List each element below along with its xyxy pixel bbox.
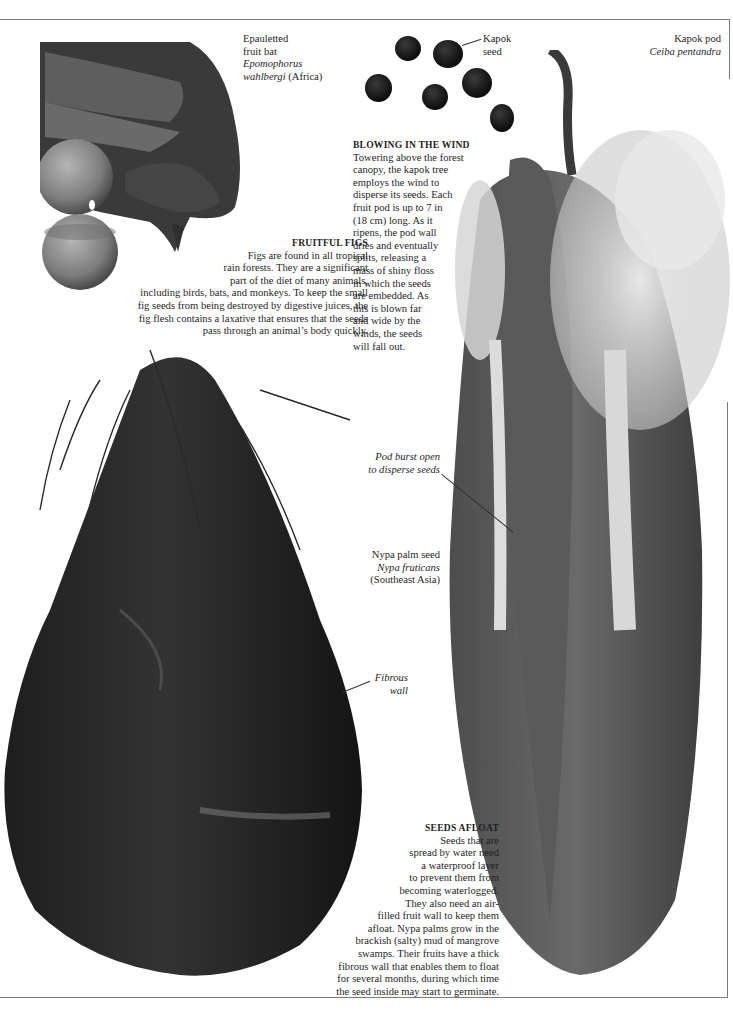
blowing-line: are embedded. As <box>353 290 478 303</box>
blowing-in-the-wind-section: BLOWING IN THE WIND Towering above the f… <box>353 139 478 353</box>
fruitful-figs-line: part of the diet of many animals, <box>20 275 368 288</box>
blowing-line: winds, the seeds <box>353 328 478 341</box>
fruitful-figs-section: FRUITFUL FIGS Figs are found in all trop… <box>20 237 368 338</box>
page-number-mark <box>360 1001 380 1007</box>
seeds-afloat-line: fibrous wall that enables them to float <box>250 961 499 974</box>
pod-burst-label-1: Pod burst open <box>330 451 440 464</box>
nypa-common-name: Nypa palm seed <box>322 549 440 562</box>
fibrous-wall-label-2: wall <box>350 685 408 698</box>
blowing-line: canopy, the kapok tree <box>353 164 478 177</box>
seeds-afloat-line: swamps. Their fruits have a thick <box>250 948 499 961</box>
kapok-pod-common-name: Kapok pod <box>601 33 721 46</box>
fruitful-figs-line: Figs are found in all tropical <box>20 250 368 263</box>
blowing-line: will fall out. <box>353 341 478 354</box>
seeds-afloat-line: for several months, during which time <box>250 973 499 986</box>
blowing-line: splits, releasing a <box>353 252 478 265</box>
nypa-region: (Southeast Asia) <box>322 574 440 587</box>
blowing-in-the-wind-heading: BLOWING IN THE WIND <box>353 139 478 152</box>
seeds-afloat-line: a waterproof layer <box>250 860 499 873</box>
kapok-seed-1 <box>395 36 421 61</box>
blowing-line: in which the seeds <box>353 278 478 291</box>
bat-latin-1: Epomophorus <box>243 58 322 71</box>
fruitful-figs-line: pass through an animal’s body quickly. <box>20 325 368 338</box>
blowing-line: dries and eventually <box>353 240 478 253</box>
fibrous-wall-label-1: Fibrous <box>350 672 408 685</box>
fruitful-figs-line: rain forests. They are a significant <box>20 262 368 275</box>
kapok-seed-3 <box>365 74 392 102</box>
blowing-line: disperse its seeds. Each <box>353 189 478 202</box>
kapok-seed-label-1: Kapok <box>483 33 511 46</box>
seeds-afloat-line: filled fruit wall to keep them <box>250 910 499 923</box>
seeds-afloat-line: They also need an air- <box>250 898 499 911</box>
kapok-seed-leader-line <box>462 39 481 46</box>
nypa-caption: Nypa palm seed Nypa fruticans (Southeast… <box>322 549 440 587</box>
blowing-line: employs the wind to <box>353 177 478 190</box>
bat-region: (Africa) <box>288 71 322 82</box>
seeds-afloat-line: brackish (salty) mud of mangrove <box>250 935 499 948</box>
seeds-afloat-line: Seeds that are <box>250 835 499 848</box>
blowing-line: this is blown far <box>353 303 478 316</box>
seeds-afloat-line: spread by water need <box>250 847 499 860</box>
blowing-line: (18 cm) long. As it <box>353 215 478 228</box>
pod-burst-label: Pod burst open to disperse seeds <box>330 451 440 476</box>
blowing-line: ripens, the pod wall <box>353 227 478 240</box>
fruitful-figs-line: including birds, bats, and monkeys. To k… <box>20 287 368 300</box>
fruitful-figs-line: fig flesh contains a laxative that ensur… <box>20 313 368 326</box>
blowing-line: mass of shiny floss <box>353 265 478 278</box>
bat-common-name-2: fruit bat <box>243 46 322 59</box>
seeds-afloat-line: afloat. Nypa palms grow in the <box>250 923 499 936</box>
seeds-afloat-line: becoming waterlogged. <box>250 885 499 898</box>
blowing-line: Towering above the forest <box>353 152 478 165</box>
bat-latin-2: wahlbergi <box>243 71 286 82</box>
seeds-afloat-heading: SEEDS AFLOAT <box>250 822 499 835</box>
fibrous-wall-label: Fibrous wall <box>350 672 408 697</box>
blowing-line: fruit pod is up to 7 in <box>353 202 478 215</box>
bat-common-name-1: Epauletted <box>243 33 322 46</box>
page-frame-top <box>0 19 729 20</box>
nypa-latin: Nypa fruticans <box>322 562 440 575</box>
blowing-line: and wide by the <box>353 315 478 328</box>
seeds-afloat-line: to prevent them from <box>250 872 499 885</box>
fruitful-figs-heading: FRUITFUL FIGS <box>20 237 368 250</box>
bat-caption: Epauletted fruit bat Epomophorus wahlber… <box>243 33 322 83</box>
seeds-afloat-line: the seed inside may start to germinate. <box>250 986 499 999</box>
pod-burst-label-2: to disperse seeds <box>330 464 440 477</box>
fruitful-figs-line: fig seeds from being destroyed by digest… <box>20 300 368 313</box>
seeds-afloat-section: SEEDS AFLOAT Seeds that are spread by wa… <box>250 822 499 998</box>
